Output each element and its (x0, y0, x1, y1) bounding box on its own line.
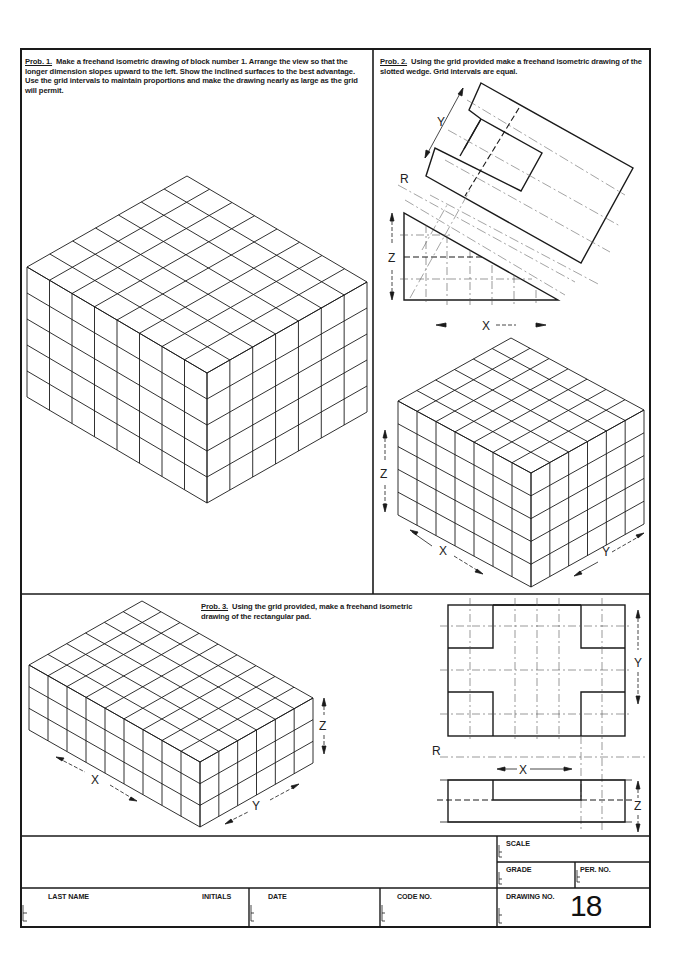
prob2-x-dimension (436, 323, 546, 327)
label-y: Y (252, 799, 260, 813)
grade-field[interactable] (505, 875, 575, 889)
label-z: Z (634, 799, 641, 813)
drawing-number: 18 (570, 889, 601, 923)
prob2-front-view-grid (400, 225, 536, 305)
prob2-top-view-hidden (465, 108, 519, 196)
problem-2-statement: Prob. 2.Using the grid provided make a f… (380, 57, 648, 76)
initials-label: INITIALS (202, 892, 231, 901)
label-r: R (400, 172, 409, 186)
initials-field[interactable] (200, 904, 250, 924)
problem-1-statement: Prob. 1.Make a freehand isometric drawin… (25, 57, 370, 95)
per-no-label: PER. NO. (580, 865, 611, 874)
prob3-iso-grid (29, 601, 313, 827)
label-z: Z (388, 251, 395, 265)
scale-field[interactable] (505, 849, 649, 863)
label-x: X (91, 773, 99, 787)
date-field[interactable] (258, 904, 380, 924)
prob3-ortho-arrows (497, 610, 640, 832)
label-r: R (432, 744, 441, 758)
date-label: DATE (268, 892, 287, 901)
problem-1-label: Prob. 1. (25, 57, 52, 66)
label-x: X (519, 763, 527, 777)
label-y: Y (602, 545, 610, 559)
label-x: X (482, 319, 490, 333)
problem-3-statement: Prob. 3.Using the grid provided, make a … (201, 602, 439, 621)
outer-border (21, 49, 650, 927)
scale-label: SCALE (506, 839, 530, 848)
prob2-top-view (426, 83, 633, 263)
prob3-top-view-grid (440, 598, 645, 830)
per-no-field[interactable] (583, 875, 651, 889)
prob3-top-view (448, 605, 625, 736)
drawing-sheet: Y R Z X Z X Y Z X Y Y R X Z Prob. 1.Make… (0, 0, 684, 979)
prob3-iso-arrows (56, 698, 326, 824)
prob1-iso-grid (27, 176, 367, 503)
problem-2-text: Using the grid provided make a freehand … (380, 57, 642, 76)
problem-2-label: Prob. 2. (380, 57, 407, 66)
prob2-center-lines (398, 100, 625, 298)
sheet-linework: Y R Z X Z X Y Z X Y Y R X Z (0, 0, 684, 979)
code-no-label: CODE NO. (397, 892, 432, 901)
problem-3-text: Using the grid provided, make a freehand… (201, 602, 412, 621)
label-x: X (439, 544, 447, 558)
last-name-field[interactable] (30, 904, 194, 924)
last-name-label: LAST NAME (48, 892, 89, 901)
drawing-no-label: DRAWING NO. (506, 892, 554, 901)
label-y: Y (634, 656, 642, 670)
label-z: Z (319, 719, 326, 733)
grade-label: GRADE (506, 865, 531, 874)
prob3-front-view (440, 780, 632, 822)
problem-3-label: Prob. 3. (201, 602, 228, 611)
axis-labels: Y R Z X Z X Y Z X Y Y R X Z (91, 115, 642, 813)
label-z: Z (380, 467, 387, 481)
label-y: Y (437, 115, 445, 129)
code-no-field[interactable] (390, 904, 496, 924)
problem-1-text: Make a freehand isometric drawing of blo… (25, 57, 358, 95)
